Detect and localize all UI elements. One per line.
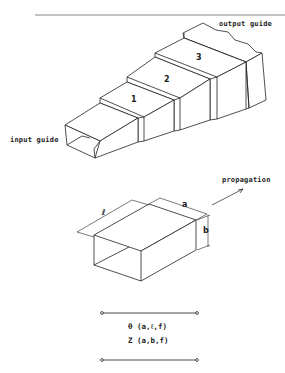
transmission-line-bottom bbox=[101, 359, 199, 362]
waveguide-section-shape bbox=[94, 204, 196, 281]
width-label: a bbox=[182, 200, 187, 209]
impedance-label: Z (a,b,f) bbox=[128, 336, 169, 345]
output-guide-label: output guide bbox=[219, 20, 272, 28]
section-2-label: 2 bbox=[164, 75, 170, 84]
transmission-line-top bbox=[101, 312, 199, 315]
propagation-label: propagation bbox=[222, 176, 271, 184]
input-guide-label: input guide bbox=[10, 136, 59, 144]
waveguide-figure bbox=[0, 0, 285, 373]
section-3-label: 3 bbox=[196, 53, 202, 62]
electrical-length-label: θ (a,ℓ,f) bbox=[128, 322, 167, 331]
height-label: b bbox=[203, 226, 209, 235]
section-1-label: 1 bbox=[131, 95, 137, 104]
propagation-arrow bbox=[212, 189, 243, 205]
input-guide-shape bbox=[65, 103, 138, 158]
length-label: ℓ bbox=[102, 208, 106, 217]
